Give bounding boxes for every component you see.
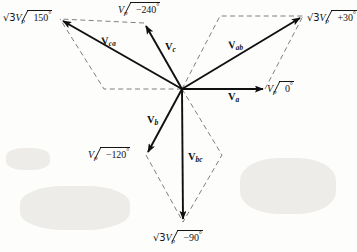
vector-vbc	[182, 89, 183, 219]
sqrt3-prefix-minus90: √3	[153, 232, 166, 243]
axis-label-vp-minus120-angle: 120	[111, 149, 126, 160]
angle-symbol-plus30: +30°	[331, 10, 356, 24]
vector-label-va-sub: a	[236, 95, 240, 104]
angle-symbol-minus120: −120°	[100, 147, 130, 161]
vector-label-va: Va	[228, 92, 239, 103]
angle-symbol-0deg: 0°	[279, 81, 294, 95]
axis-label-sqrt3vp-minus90-angle: 90	[189, 232, 199, 243]
axis-label-sqrt3vp-150-angle: 150	[33, 12, 48, 23]
vector-label-vca-main: V	[101, 35, 109, 46]
phasor-vectors	[63, 18, 300, 219]
vector-label-vbc: Vbc	[188, 152, 203, 163]
phasor-diagram: Va Vb Vc Vab Vbc Vca Vp0° Vp−120° Vp−240…	[0, 0, 357, 252]
sqrt3-prefix-plus30: √3	[307, 12, 320, 23]
vector-label-vbc-main: V	[188, 151, 196, 162]
dash-line-ca-top	[60, 19, 144, 23]
axis-label-vp-minus240deg: Vp−240°	[118, 2, 160, 16]
vector-label-vca-sub: ca	[108, 39, 116, 48]
axis-label-sqrt3vp-plus30deg: √3Vp+30°	[307, 10, 357, 24]
vector-label-vab-sub: ab	[235, 43, 243, 52]
vector-label-vab: Vab	[228, 40, 244, 51]
vector-label-vc-sub: c	[173, 45, 176, 54]
dash-line-bc-left	[146, 155, 183, 222]
axis-label-sqrt3vp-minus90deg: √3Vp−90°	[153, 230, 203, 244]
degree-sign-4: °	[48, 10, 51, 19]
vector-label-vbc-sub: bc	[196, 155, 203, 164]
vector-label-vb-sub: b	[155, 118, 159, 127]
angle-symbol-minus240: −240°	[130, 2, 160, 16]
degree-sign-2: °	[156, 2, 159, 11]
vector-label-vca: Vca	[101, 36, 116, 47]
vector-label-vb: Vb	[147, 115, 158, 126]
degree-sign-1: °	[126, 147, 129, 156]
vector-vca	[63, 21, 182, 89]
axis-label-vp-minus120deg: Vp−120°	[88, 147, 130, 161]
axis-label-vp-minus240-angle: 240	[141, 4, 156, 15]
angle-symbol-minus90: −90°	[177, 230, 202, 244]
degree-sign-0: °	[290, 81, 293, 90]
vector-label-va-main: V	[228, 91, 236, 102]
vector-label-vc-main: V	[165, 41, 173, 52]
angle-symbol-150: 150°	[27, 10, 52, 24]
vector-vab	[182, 18, 300, 89]
vector-label-vc: Vc	[165, 42, 176, 53]
degree-sign-5: °	[199, 230, 202, 239]
axis-label-sqrt3vp-150deg: √3Vp150°	[3, 10, 52, 24]
axis-label-vp-0deg: Vp0°	[267, 81, 294, 95]
vector-label-vb-main: V	[147, 114, 155, 125]
degree-sign-3: °	[353, 10, 356, 19]
phasor-svg-canvas	[0, 0, 357, 252]
vector-label-vab-main: V	[228, 39, 236, 50]
axis-label-sqrt3vp-plus30-angle: 30	[343, 12, 353, 23]
sqrt3-prefix-150: √3	[3, 12, 16, 23]
